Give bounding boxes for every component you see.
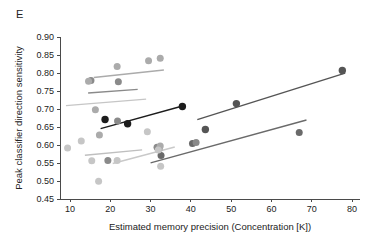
data-point xyxy=(179,103,186,110)
regression-line-series-7-pale-fit xyxy=(85,150,142,155)
x-tick-label: 80 xyxy=(347,204,357,214)
data-point xyxy=(202,126,209,133)
data-point xyxy=(114,63,121,70)
data-point xyxy=(157,163,164,170)
figure-panel: E 0.450.500.550.600.650.700.750.800.850.… xyxy=(0,0,379,241)
y-tick-label: 0.45 xyxy=(36,194,54,204)
data-point xyxy=(157,55,164,62)
data-point xyxy=(124,120,131,127)
data-point xyxy=(296,129,303,136)
y-tick-label: 0.85 xyxy=(36,50,54,60)
y-tick-label: 0.80 xyxy=(36,68,54,78)
y-tick-label: 0.70 xyxy=(36,104,54,114)
y-tick-label: 0.60 xyxy=(36,140,54,150)
data-point xyxy=(95,178,102,185)
data-point xyxy=(114,117,121,124)
data-point xyxy=(64,144,71,151)
data-point xyxy=(155,147,162,154)
y-tick-label: 0.90 xyxy=(36,32,54,42)
regression-line-series-1-black xyxy=(101,105,186,128)
x-tick-label: 10 xyxy=(65,204,75,214)
x-tick-label: 30 xyxy=(146,204,156,214)
y-tick-label: 0.75 xyxy=(36,86,54,96)
data-point xyxy=(193,139,200,146)
scatter-plot: 0.450.500.550.600.650.700.750.800.850.90… xyxy=(0,0,379,241)
data-point xyxy=(78,138,85,145)
regression-line-series-2-dark-gray xyxy=(197,73,345,119)
y-tick-label: 0.50 xyxy=(36,176,54,186)
data-point xyxy=(88,157,95,164)
data-point xyxy=(339,67,346,74)
x-axis-title: Estimated memory precision (Concentratio… xyxy=(109,221,311,232)
data-points-group xyxy=(64,55,346,185)
data-point xyxy=(233,100,240,107)
data-point xyxy=(114,157,121,164)
y-tick-label: 0.65 xyxy=(36,122,54,132)
y-axis-ticks: 0.450.500.550.600.650.700.750.800.850.90 xyxy=(36,32,60,204)
regression-line-series-8-pale-fit-lower xyxy=(113,147,175,164)
data-point xyxy=(101,116,108,123)
x-tick-label: 20 xyxy=(105,204,115,214)
x-tick-label: 50 xyxy=(226,204,236,214)
x-tick-label: 70 xyxy=(307,204,317,214)
y-tick-label: 0.55 xyxy=(36,158,54,168)
data-point xyxy=(115,78,122,85)
x-tick-label: 60 xyxy=(266,204,276,214)
x-axis-ticks: 1020304050607080 xyxy=(65,199,357,214)
y-axis-title: Peak classifier direction sensitivity xyxy=(13,46,24,190)
regression-line-series-3-mid-gray xyxy=(151,120,307,163)
regression-line-series-6-lightest-gray xyxy=(66,99,146,105)
regression-line-series-4-gray xyxy=(88,89,138,93)
regression-line-series-5-light-gray xyxy=(94,70,164,78)
data-point xyxy=(85,78,92,85)
fit-lines-group xyxy=(66,70,345,164)
data-point xyxy=(145,57,152,64)
data-point xyxy=(144,128,151,135)
x-tick-label: 40 xyxy=(186,204,196,214)
data-point xyxy=(104,157,111,164)
data-point xyxy=(96,131,103,138)
data-point xyxy=(92,106,99,113)
